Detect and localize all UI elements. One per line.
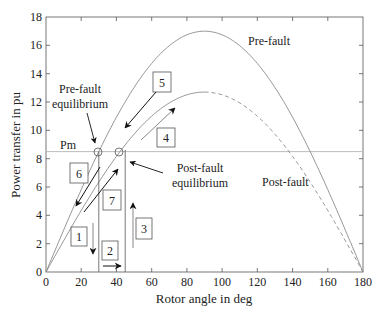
pm-label: Pm — [60, 138, 77, 152]
svg-text:6: 6 — [76, 167, 82, 181]
prefault-eq-label-1: Pre-fault — [59, 82, 102, 96]
y-axis-label: Power transfer in pu — [8, 92, 23, 198]
power-angle-chart: 0 20 40 60 80 100 120 140 160 180 0 2 4 … — [0, 0, 385, 317]
step-box-1: 1 — [71, 227, 87, 246]
prefault-eq-pointer — [87, 113, 95, 143]
svg-text:2: 2 — [36, 237, 42, 251]
svg-text:16: 16 — [30, 38, 42, 52]
svg-text:140: 140 — [284, 275, 302, 289]
step-box-7: 7 — [103, 190, 121, 210]
postfault-eq-label-2: equilibrium — [172, 176, 229, 190]
svg-text:0: 0 — [36, 265, 42, 279]
plot-frame — [46, 17, 363, 272]
y-ticks — [46, 45, 363, 243]
svg-text:12: 12 — [30, 95, 42, 109]
step-box-5: 5 — [153, 72, 171, 92]
svg-text:1: 1 — [76, 230, 82, 244]
svg-text:7: 7 — [109, 194, 115, 208]
svg-text:60: 60 — [146, 275, 158, 289]
x-axis-label: Rotor angle in deg — [156, 291, 253, 306]
step-box-3: 3 — [136, 218, 152, 239]
svg-text:4: 4 — [36, 208, 42, 222]
svg-text:2: 2 — [107, 244, 113, 258]
prefault-eq-label-2: equilibrium — [52, 97, 109, 111]
svg-text:18: 18 — [30, 10, 42, 24]
svg-text:180: 180 — [354, 275, 372, 289]
svg-text:4: 4 — [163, 131, 169, 145]
svg-text:80: 80 — [181, 275, 193, 289]
y-tick-labels: 0 2 4 6 8 10 12 14 16 18 — [30, 10, 42, 279]
svg-text:100: 100 — [213, 275, 231, 289]
step-box-4: 4 — [157, 128, 175, 147]
step-box-6: 6 — [70, 163, 88, 183]
svg-text:160: 160 — [319, 275, 337, 289]
svg-text:5: 5 — [159, 76, 165, 90]
postfault-eq-label-1: Post-fault — [177, 161, 224, 175]
step-box-2: 2 — [102, 241, 118, 260]
prefault-label: Pre-fault — [248, 34, 291, 48]
svg-text:20: 20 — [75, 275, 87, 289]
postfault-eq-pointer — [130, 162, 163, 173]
svg-text:14: 14 — [30, 67, 42, 81]
svg-text:0: 0 — [43, 275, 49, 289]
svg-text:40: 40 — [110, 275, 122, 289]
svg-text:8: 8 — [36, 152, 42, 166]
arrow-step-5 — [125, 92, 156, 128]
svg-text:10: 10 — [30, 123, 42, 137]
x-tick-labels: 0 20 40 60 80 100 120 140 160 180 — [43, 275, 372, 289]
svg-text:120: 120 — [248, 275, 266, 289]
svg-text:6: 6 — [36, 180, 42, 194]
svg-text:3: 3 — [141, 222, 147, 236]
postfault-label: Post-fault — [262, 175, 309, 189]
x-ticks — [81, 17, 328, 272]
